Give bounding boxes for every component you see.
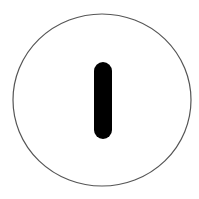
power-on-icon-canvas: I [0,0,199,199]
power-on-icon [0,0,199,199]
vertical-bar-icon [94,62,112,139]
